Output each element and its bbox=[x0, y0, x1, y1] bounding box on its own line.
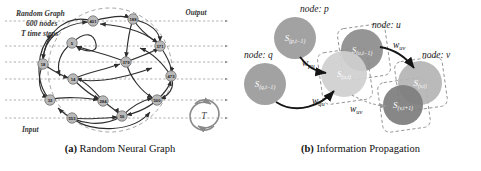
edge-u-to-v-next bbox=[352, 95, 386, 106]
graph-node-label: 56 bbox=[120, 114, 125, 119]
information-propagation-svg: S(p,t−1)S(q,t−1)S(u,t−1)S(u,t)S(v,t)S(v,… bbox=[240, 0, 481, 140]
graph-node-label: 18 bbox=[41, 62, 46, 67]
graph-node-label: 379 bbox=[123, 60, 131, 65]
graph-node-label: 284 bbox=[100, 99, 108, 104]
weight-subscript: qu bbox=[318, 100, 324, 107]
weight-label: wqu bbox=[312, 96, 325, 107]
node-group-label: node: u bbox=[372, 20, 401, 30]
graph-edges bbox=[39, 16, 173, 128]
weight-subscript: uv bbox=[399, 44, 405, 51]
graph-node: 18 bbox=[38, 59, 48, 69]
edge-q-to-u bbox=[276, 91, 334, 108]
graph-node-label: 14 bbox=[71, 77, 76, 82]
graph-node: 5 bbox=[67, 38, 77, 48]
state-node-s_u_t: S(u,t) bbox=[321, 51, 367, 97]
caption-panel-b: (b) Information Propagation bbox=[240, 143, 481, 165]
weight-subscript: pu bbox=[307, 62, 314, 69]
state-node-s_q_tm1: S(q,t−1) bbox=[244, 63, 286, 105]
weight-label: wuv bbox=[393, 40, 406, 51]
graph-node: 401 bbox=[88, 16, 98, 26]
state-node-subscript: (p,t−1) bbox=[289, 38, 305, 45]
state-nodes: S(p,t−1)S(q,t−1)S(u,t−1)S(u,t)S(v,t)S(v,… bbox=[244, 17, 442, 125]
graph-node: 188 bbox=[128, 14, 138, 24]
caption-panel-a: (a) Random Neural Graph bbox=[0, 143, 240, 165]
output-label: Output bbox=[186, 9, 208, 17]
graph-node: 473 bbox=[166, 71, 176, 81]
graph-title-line2: 600 nodes bbox=[26, 19, 57, 28]
graph-node: 553 bbox=[67, 113, 77, 123]
input-label: Input bbox=[21, 126, 39, 134]
state-node-s_p_tm1: S(p,t−1) bbox=[274, 17, 316, 59]
weight-label: wpu bbox=[302, 58, 315, 69]
caption-b-text: Information Propagation bbox=[316, 143, 420, 154]
graph-node: 14 bbox=[68, 74, 78, 84]
recurrence-symbol: T bbox=[190, 100, 219, 130]
node-group-label: node: p bbox=[300, 4, 329, 14]
weight-subscript: uv bbox=[356, 108, 362, 115]
node-group-label: node: v bbox=[422, 50, 451, 60]
graph-title-line1: Random Graph bbox=[15, 9, 65, 18]
caption-a-tag: (a) bbox=[65, 143, 77, 154]
graph-node: 56 bbox=[117, 111, 127, 121]
graph-node: 371 bbox=[155, 41, 165, 51]
graph-node-label: 500 bbox=[154, 98, 162, 103]
graph-node: 284 bbox=[98, 96, 108, 106]
caption-b-tag: (b) bbox=[301, 143, 314, 154]
graph-node: 379 bbox=[121, 57, 131, 67]
state-node-subscript: (u,t−1) bbox=[356, 50, 372, 57]
ellipsis-label: · · · bbox=[115, 73, 127, 82]
caption-a-text: Random Neural Graph bbox=[80, 143, 176, 154]
graph-node: 500 bbox=[152, 95, 162, 105]
panel-random-neural-graph: 401188537118379144733228450055356 T Rand… bbox=[0, 0, 240, 140]
figure-container: 401188537118379144733228450055356 T Rand… bbox=[0, 0, 481, 171]
graph-node-label: 401 bbox=[90, 19, 98, 24]
state-node-subscript: (v,t+1) bbox=[398, 105, 413, 112]
node-group-label: node: q bbox=[244, 50, 273, 60]
graph-title-line3: T time steps bbox=[21, 29, 58, 38]
graph-node-label: 473 bbox=[168, 74, 176, 79]
state-node-subscript: (q,t−1) bbox=[259, 84, 275, 91]
graph-node-label: 553 bbox=[69, 116, 77, 121]
state-node-subscript: (u,t) bbox=[342, 74, 352, 81]
graph-node-label: 188 bbox=[130, 17, 138, 22]
graph-node-label: 32 bbox=[48, 98, 53, 103]
state-node-subscript: (v,t) bbox=[418, 83, 427, 90]
random-graph-svg: 401188537118379144733228450055356 T Rand… bbox=[0, 0, 240, 140]
state-node-s_v_tp1: S(v,t+1) bbox=[383, 85, 423, 125]
recurrence-symbol-label: T bbox=[201, 111, 207, 121]
panel-information-propagation: S(p,t−1)S(q,t−1)S(u,t−1)S(u,t)S(v,t)S(v,… bbox=[240, 0, 481, 140]
graph-node-label: 371 bbox=[157, 44, 165, 49]
weight-label: wuv bbox=[350, 104, 363, 115]
graph-node: 32 bbox=[45, 95, 55, 105]
